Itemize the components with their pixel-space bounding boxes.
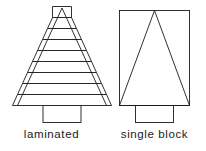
figure-page: laminated single block bbox=[0, 0, 206, 151]
laminated-layer-6 bbox=[28, 62, 97, 73]
caption-single-block: single block bbox=[103, 128, 206, 140]
single-block-pedestal bbox=[136, 106, 174, 123]
caption-laminated: laminated bbox=[0, 128, 103, 140]
laminated-layer-5 bbox=[33, 51, 92, 62]
laminated-layer-9 bbox=[13, 95, 112, 106]
laminated-layer-8 bbox=[18, 84, 107, 95]
laminated-figure bbox=[13, 7, 112, 123]
laminated-layer-2 bbox=[48, 18, 77, 29]
laminated-pedestal bbox=[43, 106, 81, 123]
laminated-layer-7 bbox=[23, 73, 102, 84]
single-block-figure bbox=[120, 11, 190, 123]
single-block-outline bbox=[120, 11, 190, 106]
